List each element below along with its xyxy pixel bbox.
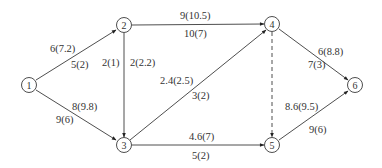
node-5: 5	[265, 138, 280, 153]
edge-2-4-label-top: 9(10.5)	[180, 10, 211, 22]
edge-4-6-label-bottom: 7(3)	[308, 59, 326, 71]
node-4: 4	[265, 17, 280, 32]
edge-1-3	[36, 90, 116, 140]
node-4-label: 4	[270, 19, 275, 30]
edge-2-4-label-bottom: 10(7)	[184, 28, 207, 40]
edge-4-6-label-top: 6(8.8)	[318, 46, 344, 58]
edge-2-3-label-left: 2(1)	[102, 57, 120, 69]
edge-3-5-label-bottom: 5(2)	[192, 150, 210, 162]
edge-3-5-label-top: 4.6(7)	[189, 131, 215, 143]
edge-3-4-label-bottom: 3(2)	[192, 90, 210, 102]
node-2-label: 2	[122, 20, 127, 31]
node-3-label: 3	[122, 140, 127, 151]
node-1-label: 1	[27, 80, 32, 91]
edge-1-2-label-bottom: 5(2)	[71, 59, 89, 71]
node-2: 2	[117, 18, 132, 33]
edge-1-3-label-bottom: 9(6)	[56, 114, 74, 126]
node-6-label: 6	[353, 80, 358, 91]
node-5-label: 5	[270, 140, 275, 151]
node-3: 3	[117, 138, 132, 153]
node-6: 6	[348, 78, 363, 93]
network-diagram: 6(7.2) 5(2) 8(9.8) 9(6) 2(1) 2(2.2) 9(10…	[0, 0, 382, 168]
edge-2-4	[132, 24, 264, 25]
edge-5-6-label-bottom: 9(6)	[309, 124, 327, 136]
node-1: 1	[22, 78, 37, 93]
edge-1-2-label-top: 6(7.2)	[50, 43, 76, 55]
edge-3-4	[130, 30, 266, 140]
edge-1-3-label-top: 8(9.8)	[72, 101, 98, 113]
edge-1-2	[36, 30, 116, 80]
edge-5-6-label-top: 8.6(9.5)	[285, 101, 319, 113]
edge-3-4-label-top: 2.4(2.5)	[160, 75, 194, 87]
edge-2-3-label-right: 2(2.2)	[130, 57, 156, 69]
